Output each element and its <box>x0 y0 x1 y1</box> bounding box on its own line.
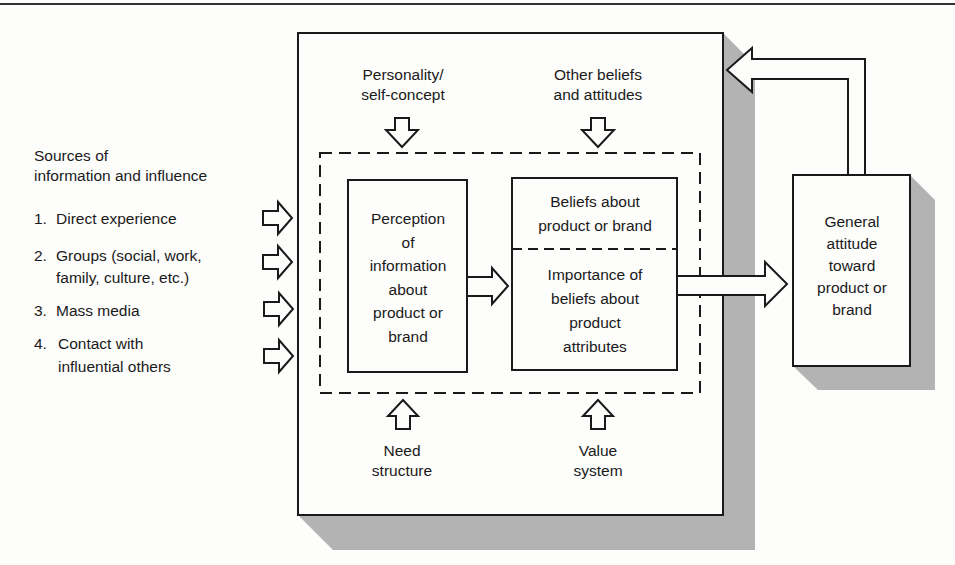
arrow-right-icon <box>263 202 292 234</box>
beliefs-importance-text: Importance of beliefs about product attr… <box>512 263 678 359</box>
influence-line2: structure <box>352 461 452 481</box>
beliefs-line: product or brand <box>512 214 678 238</box>
sources-title: Sources of information and influence <box>34 146 207 186</box>
sources-title-line2: information and influence <box>34 166 207 186</box>
influence-other-beliefs: Other beliefs and attitudes <box>534 65 662 105</box>
source-label-line2: influential others <box>58 356 171 377</box>
influence-line2: self-concept <box>342 85 464 105</box>
influence-line1: Personality/ <box>342 65 464 85</box>
source-label: Groups (social, work, <box>56 245 202 266</box>
source-arrows <box>263 202 293 372</box>
source-number: 1. <box>34 208 47 229</box>
source-label-line2: family, culture, etc.) <box>56 267 189 288</box>
perception-line: about <box>348 278 468 302</box>
importance-line: Importance of <box>512 263 678 287</box>
attitude-line: brand <box>793 299 911 321</box>
perception-line: product or <box>348 301 468 325</box>
attitude-line: attitude <box>793 233 911 255</box>
influence-line1: Other beliefs <box>534 65 662 85</box>
source-label: Direct experience <box>56 208 177 229</box>
source-number: 4. <box>34 333 47 354</box>
attitude-line: toward <box>793 255 911 277</box>
importance-line: beliefs about <box>512 287 678 311</box>
sources-title-line1: Sources of <box>34 146 207 166</box>
beliefs-top-text: Beliefs about product or brand <box>512 190 678 238</box>
perception-line: information <box>348 254 468 278</box>
source-number: 2. <box>34 245 47 266</box>
source-number: 3. <box>34 300 47 321</box>
importance-line: attributes <box>512 335 678 359</box>
perception-box-text: Perception of information about product … <box>348 207 468 348</box>
importance-line: product <box>512 311 678 335</box>
attitude-line: General <box>793 211 911 233</box>
influence-personality: Personality/ self-concept <box>342 65 464 105</box>
attitude-box-text: General attitude toward product or brand <box>793 211 911 321</box>
beliefs-line: Beliefs about <box>512 190 678 214</box>
influence-line1: Value <box>548 441 648 461</box>
arrow-right-icon <box>264 340 293 372</box>
source-item-4: 4. Contact with influential others <box>34 333 264 377</box>
influence-line2: and attitudes <box>534 85 662 105</box>
attitude-line: product or <box>793 277 911 299</box>
arrow-right-icon <box>264 293 293 325</box>
influence-need-structure: Need structure <box>352 441 452 481</box>
perception-line: brand <box>348 325 468 349</box>
perception-line: Perception <box>348 207 468 231</box>
influence-line2: system <box>548 461 648 481</box>
source-label: Mass media <box>56 300 140 321</box>
perception-line: of <box>348 231 468 255</box>
source-label: Contact with <box>58 333 143 354</box>
influence-line1: Need <box>352 441 452 461</box>
influence-value-system: Value system <box>548 441 648 481</box>
arrow-right-icon <box>263 246 292 278</box>
source-item-2: 2. Groups (social, work, family, culture… <box>34 245 264 289</box>
